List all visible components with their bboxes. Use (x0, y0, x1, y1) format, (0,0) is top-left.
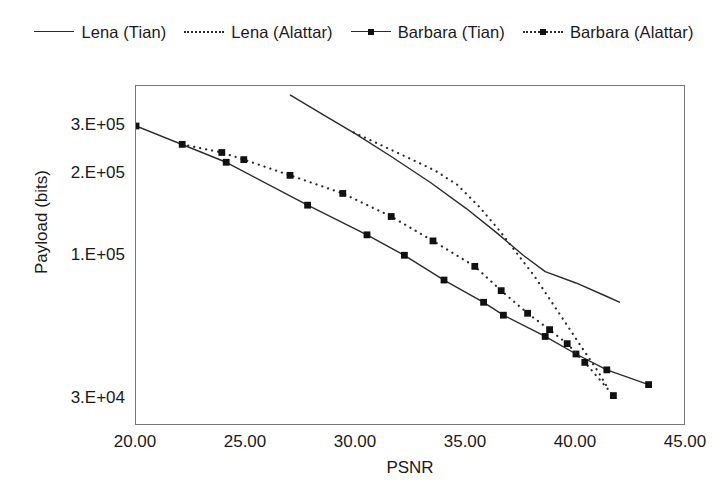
data-point-marker (480, 299, 487, 306)
legend-label: Barbara (Tian) (398, 23, 505, 42)
x-axis-tick-label: 35.00 (444, 432, 487, 452)
legend-swatch-icon (523, 25, 563, 39)
legend-label: Barbara (Alattar) (570, 23, 694, 42)
data-point-marker (542, 333, 549, 340)
legend-swatch-icon (351, 25, 391, 39)
data-point-marker (524, 310, 531, 317)
y-axis-tick-labels: 3.E+052.E+051.E+053.E+04 (0, 0, 135, 495)
y-axis-tick-label: 1.E+05 (10, 245, 135, 265)
plot-svg (136, 86, 686, 426)
y-axis-title: Payload (bits) (32, 117, 52, 327)
legend-entry: Barbara (Alattar) (523, 23, 694, 42)
data-point-marker (240, 156, 247, 163)
series-line (290, 95, 620, 302)
x-axis-tick-label: 20.00 (114, 432, 157, 452)
data-point-marker (564, 340, 571, 347)
data-point-marker (500, 312, 507, 319)
data-point-marker (401, 252, 408, 259)
series-barbara-tian (136, 123, 652, 388)
plot-area (135, 85, 685, 425)
data-point-marker (287, 172, 294, 179)
data-point-marker (388, 213, 395, 220)
series-line (136, 126, 649, 385)
x-axis-tick-label: 40.00 (554, 432, 597, 452)
legend-entry: Lena (Alattar) (184, 23, 332, 42)
data-point-marker (610, 392, 617, 399)
y-axis-tick-label: 2.E+05 (10, 163, 135, 183)
x-axis-tick-labels: 20.0025.0030.0035.0040.0045.00 (0, 432, 728, 458)
legend-square-marker-icon (368, 29, 374, 35)
data-point-marker (136, 123, 139, 130)
legend-swatch-icon (184, 25, 224, 39)
legend-line-icon (184, 31, 224, 33)
legend-square-marker-icon (540, 29, 546, 35)
data-point-marker (471, 263, 478, 270)
x-axis-tick-label: 25.00 (224, 432, 267, 452)
series-line (182, 144, 613, 395)
data-point-marker (603, 366, 610, 373)
data-point-marker (339, 190, 346, 197)
x-axis-title: PSNR (135, 458, 685, 478)
y-axis-tick-label: 3.E+04 (10, 388, 135, 408)
data-point-marker (179, 141, 186, 148)
data-point-marker (223, 159, 230, 166)
x-axis-tick-label: 45.00 (664, 432, 707, 452)
data-point-marker (581, 359, 588, 366)
data-point-marker (364, 231, 371, 238)
series-barbara-alattar (179, 141, 617, 399)
series-lena-tian (290, 95, 620, 302)
legend-entry: Barbara (Tian) (351, 23, 505, 42)
series-lena-alattar (354, 132, 607, 386)
data-point-marker (430, 238, 437, 245)
legend-label: Lena (Alattar) (231, 23, 332, 42)
data-point-marker (498, 287, 505, 294)
x-axis-tick-label: 30.00 (334, 432, 377, 452)
data-point-marker (218, 149, 225, 156)
data-point-marker (645, 381, 652, 388)
y-axis-tick-label: 3.E+05 (10, 115, 135, 135)
data-point-marker (441, 277, 448, 284)
data-point-marker (546, 326, 553, 333)
data-point-marker (304, 202, 311, 209)
series-line (354, 132, 607, 386)
